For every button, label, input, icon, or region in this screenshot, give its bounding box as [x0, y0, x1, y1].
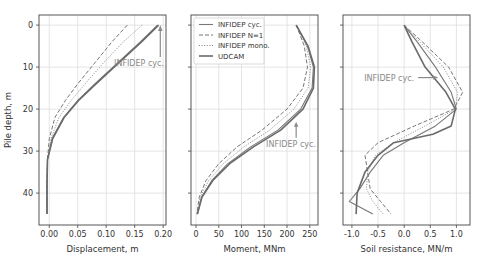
x-tick-label: -1.0 [344, 230, 360, 239]
x-tick-label: 200 [279, 230, 294, 239]
annotation-label: INFIDEP cyc. [114, 59, 164, 68]
annotation-label: INFIDEP cyc. [364, 74, 414, 83]
x-tick-label: 0.20 [154, 230, 172, 239]
series-infidep-n-1 [365, 25, 463, 214]
x-tick-label: -0.5 [370, 230, 386, 239]
y-tick-label: 10 [23, 63, 33, 72]
legend-label: INFIDEP mono. [218, 42, 270, 50]
x-axis-label: Displacement, m [66, 244, 138, 254]
x-tick-label: 0.15 [126, 230, 144, 239]
x-axis-label: Soil resistance, MN/m [361, 244, 453, 254]
legend-label: UDCAM [218, 53, 244, 61]
subplot-2: 050100150200250Moment, MNmINFIDEP cyc.IN… [188, 15, 318, 254]
chart-canvas: 0.000.050.100.150.20010203040Displacemen… [0, 0, 485, 266]
x-tick-label: 0.5 [424, 230, 437, 239]
x-tick-label: 0.0 [398, 230, 411, 239]
arrow-head-icon [294, 122, 298, 127]
y-tick-label: 20 [23, 105, 33, 114]
x-tick-label: 50 [214, 230, 224, 239]
series-infidep-n-1 [47, 25, 127, 214]
legend-label: INFIDEP cyc. [218, 21, 262, 29]
x-tick-label: 0 [193, 230, 198, 239]
legend-label: INFIDEP N=1 [218, 32, 263, 40]
axes-frame [39, 15, 166, 225]
annotation-label: INFIDEP cyc. [266, 140, 316, 149]
y-tick-label: 0 [28, 21, 33, 30]
subplot-3: -1.0-0.50.00.51.0Soil resistance, MN/mIN… [340, 15, 470, 254]
series-infidep-cyc- [349, 25, 456, 214]
x-axis-label: Moment, MNm [223, 244, 285, 254]
y-tick-label: 30 [23, 147, 33, 156]
figure: 0.000.050.100.150.20010203040Displacemen… [0, 0, 485, 266]
axes-frame [343, 15, 470, 225]
y-tick-label: 40 [23, 189, 33, 198]
series-udcam [356, 25, 455, 214]
x-tick-label: 100 [234, 230, 249, 239]
x-tick-label: 150 [257, 230, 272, 239]
legend: INFIDEP cyc.INFIDEP N=1INFIDEP mono.UDCA… [194, 18, 270, 64]
y-axis-label: Pile depth, m [3, 92, 13, 148]
x-tick-label: 0.00 [40, 230, 58, 239]
subplot-1: 0.000.050.100.150.20010203040Displacemen… [23, 15, 172, 254]
x-tick-label: 1.0 [450, 230, 463, 239]
x-tick-label: 0.05 [69, 230, 87, 239]
x-tick-label: 250 [302, 230, 317, 239]
x-tick-label: 0.10 [97, 230, 115, 239]
